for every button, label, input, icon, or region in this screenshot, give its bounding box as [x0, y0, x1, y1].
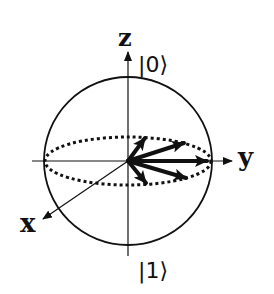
z-axis-label: z: [118, 23, 132, 52]
y-axis-label: y: [237, 142, 254, 172]
ket-one-label: |1⟩: [138, 258, 168, 284]
x-axis: [43, 161, 128, 219]
bloch-sphere-diagram: z |0⟩ y x |1⟩: [0, 0, 274, 294]
state-vectors: [128, 138, 207, 183]
x-axis-label: x: [20, 208, 36, 238]
ket-zero-label: |0⟩: [138, 52, 168, 78]
